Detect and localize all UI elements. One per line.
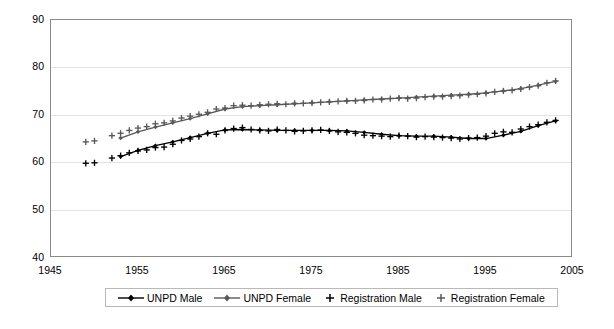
plot-area — [50, 19, 572, 257]
x-tick-label-1945: 1945 — [25, 265, 75, 276]
x-tick-label-1985: 1985 — [373, 265, 423, 276]
line-diamond-icon — [214, 293, 240, 303]
life-expectancy-chart: 90 80 70 60 50 40 1945 1955 1965 1975 19… — [0, 0, 614, 329]
y-tick-label-50: 50 — [0, 204, 44, 215]
y-tick-label-70: 70 — [0, 109, 44, 120]
x-tick-label-1955: 1955 — [112, 265, 162, 276]
legend-item-unpd-female[interactable]: UNPD Female — [214, 292, 311, 304]
plus-marker-icon — [323, 293, 337, 303]
series-line — [118, 119, 557, 159]
x-tick-label-1975: 1975 — [286, 265, 336, 276]
y-tick-label-40: 40 — [0, 252, 44, 263]
line-diamond-icon — [118, 293, 144, 303]
y-tick-label-60: 60 — [0, 156, 44, 167]
y-tick-label-80: 80 — [0, 61, 44, 72]
legend-label: Registration Male — [340, 292, 422, 304]
legend-label: UNPD Female — [243, 292, 311, 304]
series-points — [83, 117, 559, 166]
series-points — [83, 78, 559, 145]
legend-item-registration-female[interactable]: Registration Female — [434, 292, 545, 304]
x-tick-label-2005: 2005 — [547, 265, 597, 276]
chart-legend: UNPD Male UNPD Female Registration Male — [105, 288, 558, 307]
y-tick-label-90: 90 — [0, 14, 44, 25]
series-plot — [51, 20, 573, 258]
plus-marker-icon — [434, 293, 448, 303]
legend-label: Registration Female — [451, 292, 545, 304]
legend-item-unpd-male[interactable]: UNPD Male — [118, 292, 202, 304]
x-tick-label-1965: 1965 — [199, 265, 249, 276]
legend-label: UNPD Male — [147, 292, 202, 304]
legend-item-registration-male[interactable]: Registration Male — [323, 292, 422, 304]
x-tick-label-1995: 1995 — [460, 265, 510, 276]
